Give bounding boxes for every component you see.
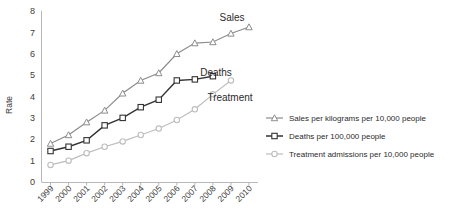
data-point-marker-triangle [246,24,252,30]
y-tick-label-8: 8 [30,6,35,16]
x-tick-label-2005: 2005 [143,183,164,204]
legend-label-0: Sales per kilograms per 10,000 people [289,114,427,123]
legend-label-2: Treatment admissions per 10,000 people [289,150,435,159]
x-tick-label-1999: 1999 [35,183,56,204]
chart-legend: Sales per kilograms per 10,000 peopleDea… [266,114,435,159]
x-tick-label-2000: 2000 [53,183,74,204]
data-point-marker-circle [48,162,53,167]
series-line-sales [51,27,249,143]
data-point-marker-circle [272,151,277,156]
data-point-marker-triangle [83,119,89,125]
annotation-deaths: Deaths [200,67,232,78]
x-tick-label-2003: 2003 [107,183,128,204]
legend-entry-2[interactable]: Treatment admissions per 10,000 people [266,150,435,159]
y-tick-label-2: 2 [30,134,35,144]
x-tick-label-2009: 2009 [215,183,236,204]
data-point-marker-circle [156,126,161,131]
legend-entry-0[interactable]: Sales per kilograms per 10,000 people [266,114,427,123]
y-axis-title: Rate [4,96,14,114]
x-tick-label-2006: 2006 [161,183,182,204]
data-point-marker-square [84,138,89,143]
data-point-marker-triangle [138,77,144,83]
data-point-marker-circle [174,117,179,122]
x-tick-label-2010: 2010 [233,183,254,204]
y-tick-label-5: 5 [30,70,35,80]
series-deaths [48,73,216,153]
data-point-marker-triangle [174,51,180,57]
x-tick-label-2002: 2002 [89,183,110,204]
y-tick-label-1: 1 [30,156,35,166]
data-point-marker-circle [192,107,197,112]
data-point-marker-circle [102,144,107,149]
chart-container: Rate 012345678 1999200020012002200320042… [0,0,456,217]
x-axis-tick-labels: 1999200020012002200320042005200620072008… [35,183,254,204]
annotation-treatment: Treatment [207,92,252,103]
data-point-marker-square [48,148,53,153]
line-chart: Rate 012345678 1999200020012002200320042… [0,0,456,217]
data-point-marker-square [102,123,107,128]
data-point-marker-square [66,144,71,149]
series-line-treatment [51,80,231,164]
legend-entry-1[interactable]: Deaths per 100,000 people [266,132,386,141]
series-sales [47,24,252,146]
x-tick-label-2008: 2008 [197,183,218,204]
data-point-marker-circle [84,150,89,155]
annotation-sales: Sales [219,12,244,23]
x-tick-label-2001: 2001 [71,183,92,204]
data-point-marker-square [192,77,197,82]
data-point-marker-square [156,97,161,102]
y-tick-label-6: 6 [30,49,35,59]
legend-label-1: Deaths per 100,000 people [289,132,386,141]
series-annotations: SalesDeathsTreatment [200,12,253,103]
data-point-marker-circle [228,78,233,83]
y-tick-label-3: 3 [30,113,35,123]
y-tick-label-7: 7 [30,28,35,38]
data-point-marker-circle [138,132,143,137]
x-tick-label-2007: 2007 [179,183,200,204]
data-point-marker-square [174,78,179,83]
y-tick-label-0: 0 [30,177,35,187]
y-axis-tick-labels: 012345678 [30,6,35,187]
x-tick-label-2004: 2004 [125,183,146,204]
data-point-marker-circle [120,139,125,144]
data-point-marker-square [138,104,143,109]
y-tick-label-4: 4 [30,92,35,102]
data-point-marker-square [120,115,125,120]
data-point-marker-triangle [47,140,53,146]
data-point-marker-circle [66,158,71,163]
series-treatment [48,78,234,168]
data-point-marker-square [272,133,277,138]
